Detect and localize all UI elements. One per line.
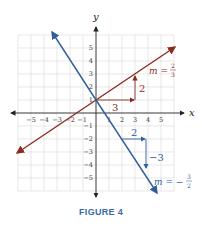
svg-text:2: 2: [120, 116, 124, 124]
y-axis-label: y: [92, 11, 99, 22]
svg-text:5: 5: [89, 44, 93, 52]
red-rise-label: 2: [139, 83, 145, 94]
blue-run-label: 2: [131, 127, 137, 138]
x-axis-label: x: [189, 107, 195, 118]
red-run-label: 3: [112, 102, 118, 113]
red-slope-num: 2: [171, 62, 175, 69]
blue-slope-den: 2: [187, 182, 191, 189]
svg-text:−3: −3: [52, 116, 62, 124]
blue-slope-num: 3: [187, 173, 191, 180]
svg-text:−5: −5: [26, 116, 36, 124]
svg-text:5: 5: [159, 116, 163, 124]
svg-text:−4: −4: [83, 161, 93, 169]
coordinate-plane: x y −5 −4 −3 −2 −1 1 2 3 4 5 1 2 3 4 5 −…: [0, 0, 202, 200]
figure-caption: FIGURE 4: [0, 207, 202, 217]
svg-text:4: 4: [89, 57, 93, 65]
blue-slope-label: m = −: [154, 177, 183, 187]
svg-text:−1: −1: [83, 122, 93, 130]
svg-text:3: 3: [89, 70, 93, 78]
red-slope-den: 3: [171, 71, 175, 78]
svg-text:−5: −5: [83, 174, 93, 182]
blue-rise-label: −3: [149, 152, 164, 163]
blue-line: [52, 32, 96, 100]
svg-text:−3: −3: [83, 148, 93, 156]
red-slope-label: m =: [149, 66, 168, 76]
x-tick-labels: −5 −4 −3 −2 −1 1 2 3 4 5: [26, 116, 163, 124]
svg-text:4: 4: [146, 116, 150, 124]
svg-text:−2: −2: [83, 135, 93, 143]
svg-text:3: 3: [133, 116, 137, 124]
svg-text:−4: −4: [39, 116, 49, 124]
